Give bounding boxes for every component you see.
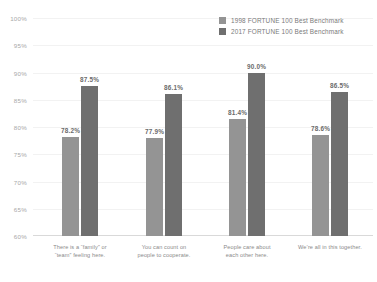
bar-2017[interactable]: [165, 94, 182, 236]
legend-swatch-1998: [219, 17, 226, 24]
bar-2017[interactable]: [248, 73, 265, 237]
bar-value-label: 78.6%: [311, 125, 330, 132]
legend-label-2017: 2017 FORTUNE 100 Best Benchmark: [231, 28, 344, 35]
bar-group: 81.4%90.0%: [229, 18, 265, 236]
y-axis-tick-label: 60%: [14, 233, 27, 240]
y-axis-tick-label: 80%: [14, 124, 27, 131]
x-axis-category-label: There is a “family” or “team” feeling he…: [35, 243, 125, 259]
x-axis-category-label: You can count on people to cooperate.: [119, 243, 209, 259]
bar-2017[interactable]: [81, 86, 98, 236]
y-axis-tick-label: 70%: [14, 178, 27, 185]
plot-area: 78.2%87.5%77.9%86.1%81.4%90.0%78.6%86.5%: [33, 18, 373, 236]
bar-1998[interactable]: [146, 138, 163, 236]
bar-1998[interactable]: [62, 137, 79, 236]
bar-value-label: 90.0%: [247, 63, 266, 70]
y-axis-tick-label: 100%: [10, 15, 27, 22]
legend-label-1998: 1998 FORTUNE 100 Best Benchmark: [231, 17, 344, 24]
legend: 1998 FORTUNE 100 Best Benchmark 2017 FOR…: [219, 15, 344, 37]
legend-swatch-2017: [219, 28, 226, 35]
y-axis-tick-label: 75%: [14, 151, 27, 158]
bar-value-label: 86.1%: [164, 84, 183, 91]
bar-value-label: 81.4%: [228, 109, 247, 116]
bar-chart: 100%95%90%85%80%75%70%65%60% 78.2%87.5%7…: [0, 0, 377, 282]
bar-value-label: 87.5%: [80, 76, 99, 83]
bar-1998[interactable]: [312, 135, 329, 236]
y-axis-tick-label: 95%: [14, 42, 27, 49]
x-axis-category-label: We’re all in this together.: [285, 243, 375, 251]
bar-value-label: 78.2%: [61, 127, 80, 134]
bar-1998[interactable]: [229, 119, 246, 236]
bar-value-label: 77.9%: [145, 128, 164, 135]
legend-item-2017[interactable]: 2017 FORTUNE 100 Best Benchmark: [219, 26, 344, 37]
y-axis-tick-label: 65%: [14, 205, 27, 212]
bar-2017[interactable]: [331, 92, 348, 236]
bar-group: 78.2%87.5%: [62, 18, 98, 236]
bar-group: 77.9%86.1%: [146, 18, 182, 236]
y-axis: 100%95%90%85%80%75%70%65%60%: [0, 0, 33, 282]
x-axis-category-label: People care about each other here.: [202, 243, 292, 259]
bar-value-label: 86.5%: [330, 82, 349, 89]
y-axis-tick-label: 90%: [14, 69, 27, 76]
legend-item-1998[interactable]: 1998 FORTUNE 100 Best Benchmark: [219, 15, 344, 26]
bar-group: 78.6%86.5%: [312, 18, 348, 236]
y-axis-tick-label: 85%: [14, 96, 27, 103]
